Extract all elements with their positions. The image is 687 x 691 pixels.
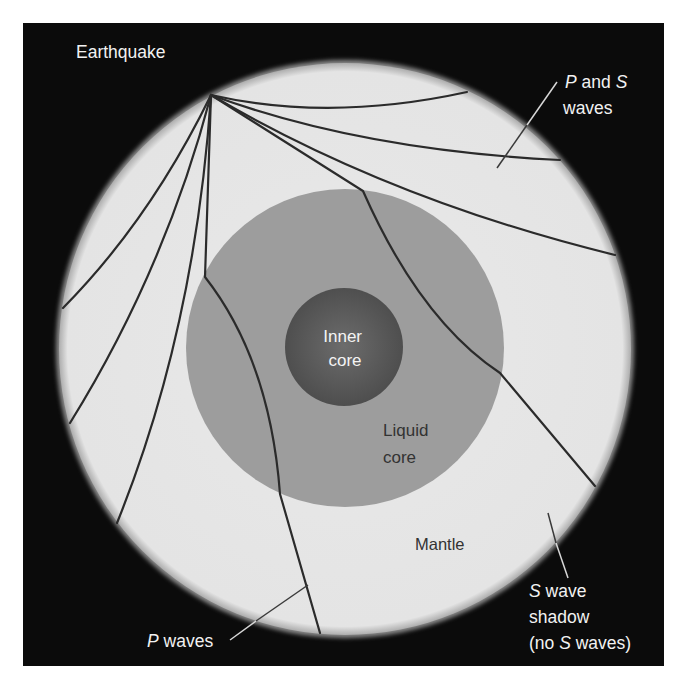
label-earthquake: Earthquake	[76, 42, 166, 62]
label-p-waves-italic: P	[147, 631, 159, 651]
label-liquid-core-line1: Liquid	[383, 421, 428, 440]
label-p-waves-rest: waves	[159, 631, 214, 651]
label-s-shadow-line2: shadow	[529, 607, 590, 627]
label-s-italic: S	[616, 72, 628, 92]
label-p-waves: P waves	[147, 631, 213, 651]
label-and: and	[577, 72, 616, 92]
label-inner-core-line2: core	[328, 351, 361, 370]
label-liquid-core-line2: core	[383, 448, 416, 467]
label-s-shadow-line3: (no S waves)	[529, 633, 631, 653]
inner-core-layer	[285, 288, 403, 406]
label-waves: waves	[562, 98, 613, 118]
label-mantle: Mantle	[415, 535, 465, 553]
label-p-italic: P	[565, 72, 577, 92]
label-inner-core-line1: Inner	[323, 327, 362, 346]
earth-seismic-wave-diagram: Earthquake P and S waves Inner core Liqu…	[0, 0, 687, 691]
label-s-shadow-line1: S wave	[529, 581, 586, 601]
